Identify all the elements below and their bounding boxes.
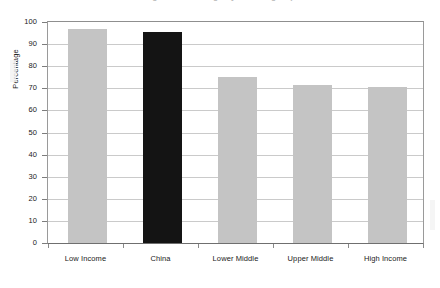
y-tick-mark <box>42 88 47 89</box>
y-tick-label: 70 <box>7 84 37 92</box>
y-tick-label: 20 <box>7 195 37 203</box>
bar-lower-middle[interactable] <box>218 77 257 243</box>
x-tick-label-china: China <box>123 254 198 264</box>
y-tick-label: 30 <box>7 173 37 181</box>
scan-artifact <box>430 200 435 230</box>
y-tick-mark <box>42 110 47 111</box>
y-tick-mark <box>42 199 47 200</box>
bar-chart-figure: Figure: Percentage by income group Perce… <box>0 0 440 288</box>
x-tick-mark <box>273 244 274 248</box>
x-tick-mark <box>348 244 349 248</box>
y-tick-label: 0 <box>7 239 37 247</box>
y-tick-mark <box>42 243 47 244</box>
y-axis-ticks: 0102030405060708090100 <box>0 0 47 288</box>
y-tick-label: 60 <box>7 106 37 114</box>
x-tick-mark <box>198 244 199 248</box>
y-tick-mark <box>42 155 47 156</box>
bar-upper-middle[interactable] <box>293 85 332 243</box>
x-tick-mark <box>423 244 424 248</box>
y-tick-mark <box>42 133 47 134</box>
x-tick-label-lower-middle: Lower Middle <box>198 254 273 264</box>
y-tick-mark <box>42 221 47 222</box>
y-tick-label: 100 <box>7 18 37 26</box>
chart-title-clipped: Figure: Percentage by income group <box>0 0 440 3</box>
y-tick-label: 40 <box>7 151 37 159</box>
bar-china[interactable] <box>143 32 182 243</box>
y-tick-label: 50 <box>7 129 37 137</box>
x-tick-label-low-income: Low Income <box>48 254 123 264</box>
y-tick-mark <box>42 44 47 45</box>
y-tick-label: 80 <box>7 62 37 70</box>
y-tick-label: 10 <box>7 217 37 225</box>
bars-group <box>48 22 423 243</box>
y-tick-label: 90 <box>7 40 37 48</box>
x-tick-label-high-income: High Income <box>348 254 423 264</box>
y-tick-mark <box>42 22 47 23</box>
x-tick-mark <box>123 244 124 248</box>
x-tick-label-upper-middle: Upper Middle <box>273 254 348 264</box>
y-tick-mark <box>42 177 47 178</box>
x-tick-mark <box>48 244 49 248</box>
bar-low-income[interactable] <box>68 29 107 243</box>
bar-high-income[interactable] <box>368 87 407 243</box>
y-tick-mark <box>42 66 47 67</box>
